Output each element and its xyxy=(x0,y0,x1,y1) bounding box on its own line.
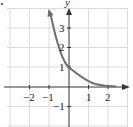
x-tick-label-neg1: −1 xyxy=(42,91,54,103)
y-axis-label: y xyxy=(64,0,70,8)
x-tick-label-1: 1 xyxy=(86,91,92,103)
y-tick-label-2: 2 xyxy=(59,41,65,53)
exponential-graph: y −2 −1 1 2 3 2 1 −1 xyxy=(0,0,133,127)
y-tick-label-1: 1 xyxy=(59,61,65,73)
corner-dot xyxy=(1,3,3,5)
curve-arrow-icon xyxy=(48,9,54,17)
y-axis-arrow-icon xyxy=(66,8,72,15)
y-tick-label-neg1: −1 xyxy=(53,100,65,112)
x-axis-arrow-icon xyxy=(122,84,130,90)
x-tick-label-2: 2 xyxy=(105,91,111,103)
x-tick-label-neg2: −2 xyxy=(23,91,35,103)
y-tick-label-3: 3 xyxy=(59,22,65,34)
